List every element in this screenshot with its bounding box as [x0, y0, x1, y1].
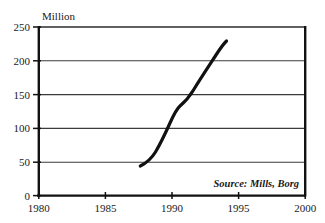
x-tick-label-1990: 1990: [161, 202, 184, 214]
y-tick-label-50: 50: [19, 156, 31, 168]
y-tick-label-200: 200: [14, 55, 31, 67]
y-axis-title: Million: [42, 10, 76, 22]
x-tick-label-1980: 1980: [28, 202, 51, 214]
y-tick-label-0: 0: [25, 190, 31, 202]
x-tick-label-1985: 1985: [94, 202, 117, 214]
source-note: Source: Mills, Borg: [214, 178, 299, 189]
y-tick-label-150: 150: [14, 89, 31, 101]
x-tick-label-1995: 1995: [228, 202, 251, 214]
x-tick-label-2000: 2000: [294, 202, 317, 214]
y-tick-label-100: 100: [14, 122, 31, 134]
chart-canvas: Million 250 200 150 100 50 0 1980 1985 1…: [0, 0, 325, 223]
y-tick-label-250: 250: [14, 21, 31, 33]
line-chart: Million 250 200 150 100 50 0 1980 1985 1…: [0, 0, 325, 223]
chart-background: [0, 0, 325, 223]
